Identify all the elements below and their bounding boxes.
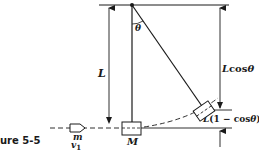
block-mass-label: M bbox=[126, 136, 139, 147]
length-label: L bbox=[97, 67, 106, 80]
figure-caption: ure 5-5 bbox=[0, 135, 40, 146]
ballistic-pendulum-diagram: θ L Lcosθ L(1 − cosθ) M m v1 ure 5-5 bbox=[0, 0, 259, 150]
block-at-rest bbox=[122, 122, 141, 135]
bullet bbox=[70, 124, 85, 132]
length-dimension-arrowhead-bottom bbox=[106, 117, 112, 124]
rise-label: L(1 − cosθ) bbox=[202, 114, 259, 124]
angle-theta-label: θ bbox=[135, 23, 141, 33]
lcos-arrowhead-bottom bbox=[217, 102, 223, 109]
string-deflected bbox=[132, 5, 206, 112]
lcos-label: Lcosθ bbox=[221, 63, 254, 74]
